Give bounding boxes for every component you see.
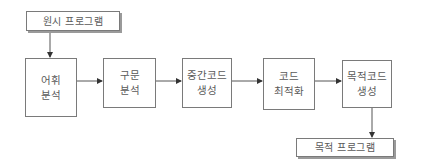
compiler-phases-diagram: 원시 프로그램 어휘 분석 구문 분석 중간코드 생성 코드 최적화 목적코드 … — [0, 0, 421, 167]
stage-label-line2: 생성 — [197, 83, 217, 98]
stage-label-line2: 분석 — [120, 83, 140, 98]
stage-label-line1: 어휘 — [41, 73, 61, 88]
stage-label-line2: 생성 — [357, 84, 377, 99]
stage-code-optimization: 코드 최적화 — [263, 58, 315, 110]
stage-label-line1: 중간코드 — [187, 68, 227, 83]
stage-lexical-analysis: 어휘 분석 — [25, 58, 77, 117]
stage-syntax-analysis: 구문 분석 — [103, 58, 156, 108]
stage-label-line1: 목적코드 — [347, 69, 387, 84]
stage-intermediate-code: 중간코드 생성 — [182, 58, 232, 108]
target-program-label: 목적 프로그램 — [315, 140, 376, 155]
stage-target-code-generation: 목적코드 생성 — [342, 60, 392, 108]
stage-label-line1: 코드 — [279, 69, 299, 84]
target-program-box: 목적 프로그램 — [296, 138, 394, 157]
source-program-label: 원시 프로그램 — [43, 14, 104, 29]
stage-label-line2: 분석 — [41, 88, 61, 103]
stage-label-line2: 최적화 — [274, 84, 304, 99]
source-program-box: 원시 프로그램 — [26, 11, 120, 31]
stage-label-line1: 구문 — [120, 68, 140, 83]
